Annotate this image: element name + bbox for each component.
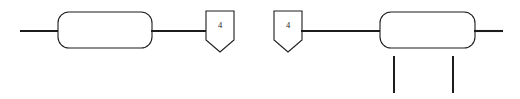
right-process-box[interactable] xyxy=(380,12,475,48)
left-process-box[interactable] xyxy=(58,12,152,48)
right-flow-fragment: 4 xyxy=(274,11,503,93)
right-pentagon-shape xyxy=(274,11,302,52)
left-flow-fragment: 4 xyxy=(20,11,234,52)
left-pentagon-shape xyxy=(206,11,234,52)
diagram-canvas: 4 4 xyxy=(0,0,520,99)
left-offpage-connector[interactable]: 4 xyxy=(206,11,234,52)
flowchart-svg: 4 4 xyxy=(0,0,520,99)
right-offpage-connector[interactable]: 4 xyxy=(274,11,302,52)
